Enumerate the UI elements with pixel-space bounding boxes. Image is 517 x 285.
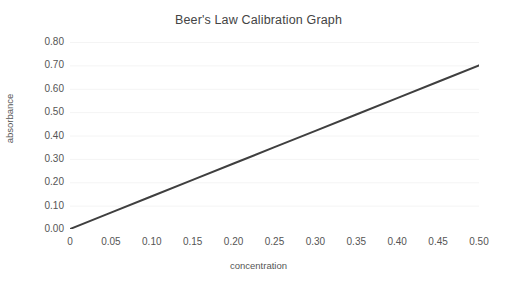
chart-title: Beer's Law Calibration Graph <box>0 13 517 27</box>
y-axis-title: absorbance <box>4 79 15 159</box>
y-tick-label: 0.70 <box>0 60 64 70</box>
y-tick-label: 0.10 <box>0 201 64 211</box>
y-tick-label: 0.00 <box>0 224 64 234</box>
x-axis-title: concentration <box>0 260 517 271</box>
beers-law-chart: Beer's Law Calibration Graph 0.000.100.2… <box>0 0 517 285</box>
x-tick-label: 0.50 <box>449 236 509 248</box>
x-axis-tick-labels: 00.050.100.150.200.250.300.350.400.450.5… <box>0 236 517 250</box>
plot-area <box>70 42 479 229</box>
y-tick-label: 0.80 <box>0 37 64 47</box>
y-tick-label: 0.20 <box>0 177 64 187</box>
plot-canvas <box>70 42 479 229</box>
series-line-0 <box>70 65 479 229</box>
